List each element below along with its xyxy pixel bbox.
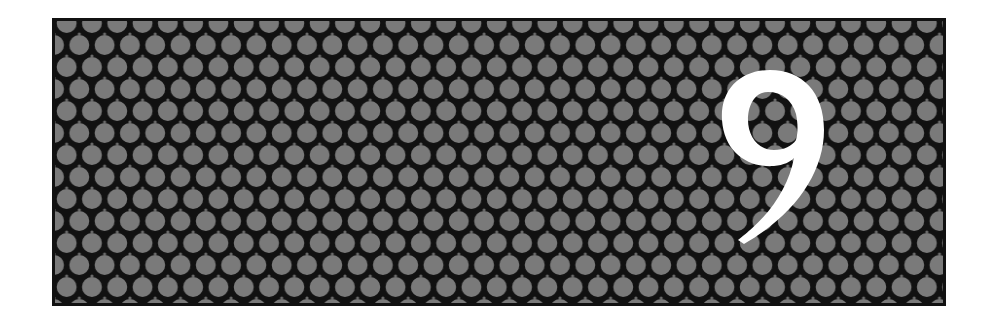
chapter-numeral-nine <box>718 68 828 246</box>
chapter-banner: 9 <box>52 18 946 306</box>
